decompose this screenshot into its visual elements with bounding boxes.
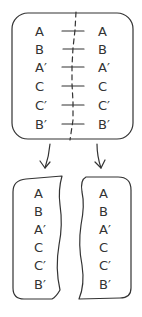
top-left-label: B bbox=[35, 42, 44, 57]
bottom-right-label: A′ bbox=[99, 222, 111, 237]
bottom-right-column: A B A′ C C′ B′ bbox=[99, 186, 111, 292]
right-down-arrow bbox=[95, 144, 105, 168]
bottom-right-label: C′ bbox=[99, 258, 111, 273]
bottom-left-label: C′ bbox=[34, 258, 46, 273]
pair-links bbox=[62, 31, 84, 124]
top-left-label: C′ bbox=[35, 98, 47, 113]
bottom-left-label: B′ bbox=[34, 277, 46, 292]
top-right-label: B′ bbox=[98, 117, 110, 132]
top-right-label: A bbox=[98, 24, 107, 39]
bottom-right-label: C bbox=[99, 240, 108, 255]
top-left-label: A′ bbox=[35, 60, 47, 75]
bottom-left-label: B bbox=[34, 204, 43, 219]
top-right-column: A B A′ C C′ B′ bbox=[98, 24, 110, 132]
bottom-left-label: A bbox=[34, 186, 43, 201]
top-right-label: A′ bbox=[98, 60, 110, 75]
bottom-right-label: B bbox=[99, 204, 108, 219]
bottom-right-label: B′ bbox=[99, 277, 111, 292]
top-left-label: B′ bbox=[35, 117, 47, 132]
bottom-left-label: C bbox=[34, 240, 43, 255]
top-right-label: C′ bbox=[98, 98, 110, 113]
split-diagram: A B A′ C C′ B′ A B A′ C C′ B′ A B A′ C C… bbox=[0, 0, 142, 317]
bottom-left-label: A′ bbox=[34, 222, 46, 237]
bottom-left-column: A B A′ C C′ B′ bbox=[34, 186, 46, 292]
left-down-arrow bbox=[40, 144, 50, 168]
top-right-label: C bbox=[98, 79, 107, 94]
bottom-right-label: A bbox=[99, 186, 108, 201]
top-left-label: A bbox=[35, 24, 44, 39]
top-right-label: B bbox=[98, 42, 107, 57]
top-left-column: A B A′ C C′ B′ bbox=[35, 24, 47, 132]
top-left-label: C bbox=[35, 79, 44, 94]
